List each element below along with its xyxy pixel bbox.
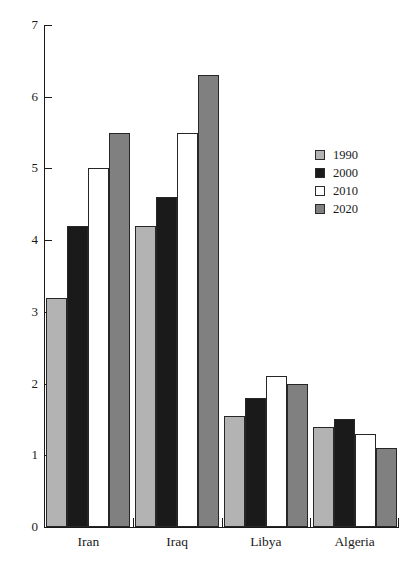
bar-algeria-2000 [334, 419, 355, 527]
bar-algeria-2020 [376, 448, 397, 527]
legend-label: 1990 [333, 149, 358, 162]
x-label-iraq: Iraq [133, 534, 222, 550]
bars-layer [44, 25, 399, 527]
legend-swatch-icon [315, 204, 325, 214]
legend-item-2020: 2020 [315, 201, 358, 217]
bar-algeria-2010 [355, 434, 376, 527]
legend-item-2010: 2010 [315, 183, 358, 199]
x-label-libya: Libya [222, 534, 311, 550]
legend-swatch-icon [315, 168, 325, 178]
y-tick-label: 0 [16, 520, 38, 533]
y-tick-label: 1 [16, 448, 38, 461]
y-tick-label: 3 [16, 305, 38, 318]
bar-iran-2010 [88, 168, 109, 527]
bar-iran-1990 [46, 298, 67, 527]
legend-item-2000: 2000 [315, 165, 358, 181]
legend-label: 2000 [333, 167, 358, 180]
y-tick-label: 2 [16, 377, 38, 390]
bar-chart: 01234567 IranIraqLibyaAlgeria 1990200020… [0, 0, 417, 578]
bar-libya-1990 [224, 416, 245, 527]
y-tick-mark [45, 527, 52, 528]
bar-iraq-1990 [135, 226, 156, 527]
bar-libya-2010 [266, 376, 287, 527]
bar-iraq-2000 [156, 197, 177, 527]
y-tick-label: 5 [16, 161, 38, 174]
legend-item-1990: 1990 [315, 147, 358, 163]
bar-iraq-2010 [177, 133, 198, 527]
bar-libya-2000 [245, 398, 266, 527]
x-label-algeria: Algeria [310, 534, 399, 550]
bar-iraq-2020 [198, 75, 219, 527]
chart-legend: 1990200020102020 [315, 147, 358, 219]
y-tick-label: 6 [16, 90, 38, 103]
legend-swatch-icon [315, 186, 325, 196]
y-tick-label: 7 [16, 18, 38, 31]
bar-libya-2020 [287, 384, 308, 527]
bar-iran-2000 [67, 226, 88, 527]
bar-algeria-1990 [313, 427, 334, 527]
legend-label: 2020 [333, 203, 358, 216]
legend-label: 2010 [333, 185, 358, 198]
bar-iran-2020 [109, 133, 130, 527]
x-label-iran: Iran [44, 534, 133, 550]
y-tick-label: 4 [16, 233, 38, 246]
legend-swatch-icon [315, 150, 325, 160]
